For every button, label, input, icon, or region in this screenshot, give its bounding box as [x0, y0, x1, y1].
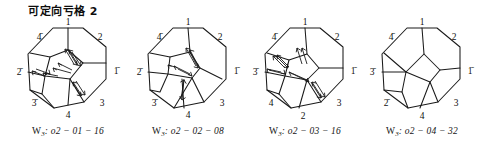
panel-1-label-lower-right: 3	[100, 98, 105, 108]
panel-2-label-upper-left: 4̄	[157, 32, 164, 42]
interior-edge-e	[30, 57, 50, 94]
panel-4-diagram: 1 4̄ 2 3̄ 1̄ 2̄ 3 4	[362, 16, 482, 128]
interior-edge-d	[28, 72, 70, 79]
panel-1-caption-body: : o2 − 01 − 16	[45, 126, 104, 136]
panel-1: 1 4̄ 2 2̄ 1̄ 3̄ 3 4 W3: o2 − 01 − 16	[8, 16, 128, 151]
interior-edge-b	[424, 54, 460, 70]
panel-2-caption: W3: o2 − 02 − 08	[128, 126, 248, 138]
panel-1-caption-prefix: W	[32, 126, 41, 136]
interior-edge-b	[68, 50, 106, 63]
panel-2-label-top: 1	[186, 17, 191, 27]
panel-4-caption: W3: o2 − 04 − 32	[362, 126, 482, 138]
panel-2: 1 4̄ 2 2̄ 1̄ 3̄ 3 4 W3: o2 − 02 − 08	[128, 16, 248, 151]
panel-2-label-lower-right: 3	[220, 98, 225, 108]
panel-4: 1 4̄ 2 3̄ 1̄ 2̄ 3 4 W3: o2 − 04 − 32	[362, 16, 482, 151]
panel-4-label-lower-left: 2̄	[384, 98, 391, 108]
panel-3-label-upper-right: 2	[335, 32, 340, 42]
panel-3-label-bottom: 2	[301, 111, 306, 121]
panel-3-label-right: 1̄	[351, 66, 358, 76]
panel-3-caption-prefix: W	[269, 126, 278, 136]
interior-edge-e	[150, 57, 170, 92]
panel-1-label-right: 1̄	[114, 66, 121, 76]
panel-4-label-left: 3̄	[370, 67, 377, 77]
panel-2-diagram: 1 4̄ 2 2̄ 1̄ 3̄ 3 4	[128, 16, 248, 128]
panel-4-caption-prefix: W	[386, 126, 395, 136]
panel-1-label-bottom: 4	[66, 110, 71, 120]
interior-edge-f	[192, 78, 204, 102]
panel-2-label-upper-right: 2	[218, 32, 223, 42]
panel-2-caption-prefix: W	[152, 126, 161, 136]
panel-3-label-top: 1	[303, 17, 308, 27]
panel-3-label-lower-left: 4	[269, 98, 274, 108]
panel-3-caption: W3: o2 − 03 − 16	[245, 126, 365, 138]
panel-1-label-top: 1	[66, 17, 71, 27]
panel-2-label-lower-left: 3̄	[152, 98, 159, 108]
panel-4-label-lower-right: 3	[454, 98, 459, 108]
panel-4-label-right: 1̄	[468, 66, 475, 76]
panel-2-caption-body: : o2 − 02 − 08	[165, 126, 224, 136]
panel-4-label-top: 1	[420, 17, 425, 27]
interior-edge-b	[307, 54, 343, 68]
panel-3-label-lower-right: 3	[337, 98, 342, 108]
interior-edge-c	[430, 70, 440, 102]
panel-1-label-left: 2̄	[17, 67, 24, 77]
panel-1-label-upper-left: 4̄	[37, 32, 44, 42]
panel-1-diagram: 1 4̄ 2 2̄ 1̄ 3̄ 3 4	[8, 16, 128, 128]
panel-3: 1 4̄ 2 3̄ 1̄ 4 3 2 W3: o2 − 03 − 16	[245, 16, 365, 151]
panel-4-label-upper-right: 2	[452, 32, 457, 42]
panel-4-caption-body: : o2 − 04 − 32	[399, 126, 458, 136]
panel-1-caption: W3: o2 − 01 − 16	[8, 126, 128, 138]
panel-1-label-upper-right: 2	[98, 32, 103, 42]
interior-edge-g	[307, 80, 321, 102]
arrow-cluster	[32, 49, 85, 96]
panel-3-caption-body: : o2 − 03 − 16	[282, 126, 341, 136]
figure-root: 可定向亏格 2	[0, 0, 483, 151]
panel-1-label-lower-left: 3̄	[32, 98, 39, 108]
panel-3-diagram: 1 4̄ 2 3̄ 1̄ 4 3 2	[245, 16, 365, 128]
panel-4-label-bottom: 4	[420, 111, 425, 121]
panel-2-label-right: 1̄	[234, 66, 241, 76]
panel-2-label-bottom: 4	[186, 110, 191, 120]
panel-3-label-left: 3̄	[253, 67, 260, 77]
octagon-outline	[382, 28, 460, 108]
interior-edge-e	[384, 72, 406, 92]
panel-2-label-left: 2̄	[137, 67, 144, 77]
